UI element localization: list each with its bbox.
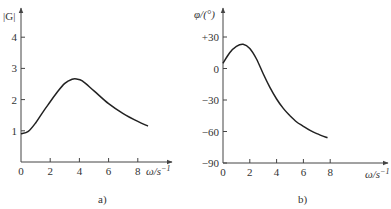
caption-a: a) [98, 193, 107, 206]
x-axis-label-a: ω/s−1 [146, 164, 171, 177]
x-tick-label: 0 [18, 165, 24, 177]
x-tick-label: 0 [220, 166, 226, 178]
y-tick-label: 1 [12, 125, 18, 137]
y-tick-label: 4 [12, 31, 18, 43]
y-ticks-a: 1234 [12, 31, 26, 137]
x-ticks-a: 02468 [18, 158, 141, 177]
y-tick-label: 3 [12, 62, 18, 74]
x-tick-label: 2 [47, 165, 53, 177]
magnitude-curve [21, 79, 148, 134]
x-tick-label: 4 [77, 165, 83, 177]
y-tick-label: −60 [202, 126, 220, 138]
figure: 02468 1234 |G| ω/s−1 a) 02468 +300−30−60… [0, 0, 391, 209]
x-tick-label: 8 [135, 165, 141, 177]
x-tick-label: 6 [301, 166, 307, 178]
caption-b: b) [298, 193, 308, 206]
x-axis-label-b: ω/s−1 [365, 167, 390, 180]
chart-a: 02468 1234 |G| ω/s−1 a) [3, 8, 172, 206]
phase-curve [223, 44, 328, 138]
y-tick-label: +30 [202, 31, 220, 43]
x-tick-label: 2 [247, 166, 253, 178]
y-tick-label: 0 [214, 63, 220, 75]
y-tick-label: −30 [202, 94, 220, 106]
x-tick-label: 4 [274, 166, 280, 178]
chart-b: 02468 +300−30−60−90 φ/(°) ω/s−1 b) [194, 8, 390, 206]
x-tick-label: 6 [106, 165, 112, 177]
x-ticks-b: 02468 [220, 159, 333, 178]
y-axis-label-b: φ/(°) [194, 8, 215, 21]
y-axis-label-a: |G| [3, 10, 15, 22]
y-tick-label: 2 [12, 94, 18, 106]
y-tick-label: −90 [202, 157, 220, 169]
x-tick-label: 8 [327, 166, 333, 178]
